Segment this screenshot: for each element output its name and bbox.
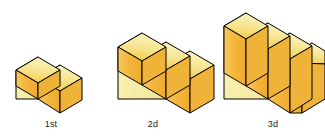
figure-3-group: 3d (0, 0, 325, 140)
figure-3-label: 3d (238, 120, 308, 129)
staircase-illustration: 1st (0, 0, 325, 140)
